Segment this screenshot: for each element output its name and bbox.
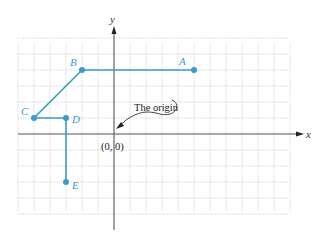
point-b (79, 67, 85, 73)
point-label-b: B (70, 57, 77, 68)
point-label-d: D (72, 114, 80, 125)
coordinate-plane-diagram: y x (0, 0) The origin A B C D E (0, 0, 321, 234)
point-label-c: C (21, 106, 28, 117)
point-c (31, 115, 37, 121)
y-axis-label: y (110, 14, 115, 25)
grid-lines (18, 38, 290, 214)
point-d (63, 115, 69, 121)
y-axis-arrow-icon (112, 26, 117, 34)
x-axis-label: x (306, 129, 311, 140)
point-a (191, 67, 197, 73)
origin-annotation-label: The origin (134, 103, 178, 114)
x-axis-arrow-icon (296, 132, 304, 137)
point-e (63, 179, 69, 185)
point-label-e: E (72, 180, 79, 191)
axes (18, 26, 304, 230)
point-label-a: A (179, 56, 186, 67)
coordinate-plane (0, 0, 321, 234)
origin-coordinate-label: (0, 0) (101, 142, 124, 153)
